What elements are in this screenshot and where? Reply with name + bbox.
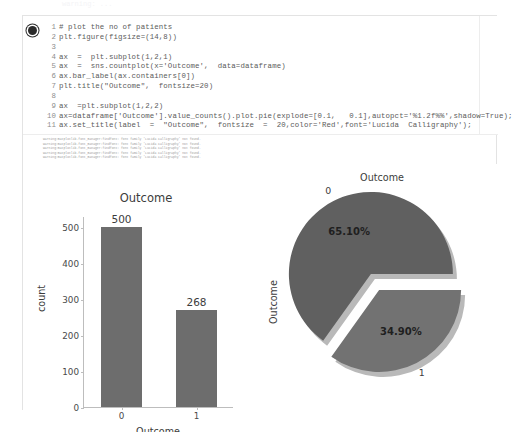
code-line: 9ax =plt.subplot(1,2,2) [43, 102, 494, 112]
bar-value-label: 500 [92, 213, 152, 225]
code-line-number: 11 [43, 121, 56, 131]
code-line-number: 10 [43, 112, 56, 122]
code-line: 7plt.title("Outcome", fontsize=20) [43, 82, 494, 92]
pie-slice-name-label: 0 [325, 185, 331, 196]
code-line-number: 4 [43, 53, 56, 63]
bar-chart-ytick-label: 400 [62, 259, 79, 269]
screenshot-root: warning: ... 1# plot the no of patients2… [0, 0, 517, 432]
bar-value-label: 268 [167, 296, 227, 308]
pie-slice-percent-label: 34.90% [380, 326, 422, 337]
bar-chart-ytick-mark [81, 372, 84, 373]
warning-line: warning:matplotlib.font_manager:findfont… [43, 155, 201, 160]
code-line-text: # plot the no of patients [59, 23, 172, 31]
bar-chart-xtick-mark [197, 407, 198, 410]
code-line-text: plt.title("Outcome", fontsize=20) [59, 82, 213, 90]
bar-chart-ytick-mark [81, 408, 84, 409]
bar-chart-ytick-mark [81, 300, 84, 301]
bar [176, 310, 217, 407]
notebook-output-frame: 1# plot the no of patients2plt.figure(fi… [22, 15, 497, 410]
bar-chart-ytick-label: 100 [62, 367, 79, 377]
code-line-number: 8 [43, 92, 56, 102]
code-line-number: 1 [43, 23, 56, 33]
bar-chart-ytick-label: 500 [62, 223, 79, 233]
code-line-number: 9 [43, 102, 56, 112]
bar-chart-panel: Outcome count 010020030040050050002681 O… [31, 164, 261, 410]
code-line: 3 [43, 43, 494, 53]
warning-output: warning:matplotlib.font_manager:findfont… [43, 137, 201, 160]
bar-chart-ytick-mark [81, 264, 84, 265]
bar-chart-ytick-mark [81, 336, 84, 337]
bar-chart-xtick-mark [122, 407, 123, 410]
code-cell[interactable]: 1# plot the no of patients2plt.figure(fi… [23, 16, 498, 135]
cell-run-indicator-icon[interactable] [28, 26, 37, 35]
bar-chart-ytick-label: 300 [62, 295, 79, 305]
warning-line: warning:matplotlib.font_manager:findfont… [43, 137, 201, 142]
code-line: 8 [43, 92, 494, 102]
code-line-text: ax.bar_label(ax.containers[0]) [59, 72, 195, 80]
code-line-text: ax = plt.subplot(1,2,1) [59, 53, 172, 61]
bar [101, 227, 142, 407]
pie-chart-graphic: 65.10%034.90%1 [275, 182, 490, 397]
code-line-text: ax =plt.subplot(1,2,2) [59, 102, 163, 110]
pie-slice-name-label: 1 [419, 367, 425, 378]
code-line-number: 2 [43, 33, 56, 43]
code-line: 6ax.bar_label(ax.containers[0]) [43, 72, 494, 82]
code-line-number: 5 [43, 62, 56, 72]
code-line: 11ax.set_title(label = "Outcome", fontsi… [43, 121, 494, 131]
code-line-text: ax=dataframe['Outcome'].value_counts().p… [59, 112, 513, 120]
bar-chart-title: Outcome [31, 191, 261, 205]
pie-chart-panel: Outcome Outcome 65.10%034.90%1 [261, 164, 498, 410]
code-line: 10ax=dataframe['Outcome'].value_counts()… [43, 112, 494, 122]
bar-chart-plot-area: 010020030040050050002681 [83, 217, 233, 408]
code-line: 1# plot the no of patients [43, 23, 494, 33]
code-line-number: 3 [43, 43, 56, 53]
code-line: 2plt.figure(figsize=(14,8)) [43, 33, 494, 43]
bar-chart-xlabel: Outcome [83, 426, 233, 432]
figure-output: Outcome count 010020030040050050002681 O… [23, 164, 498, 410]
code-line-text: ax.set_title(label = "Outcome", fontsize… [59, 121, 472, 129]
code-line-text: ax = sns.countplot(x='Outcome', data=dat… [59, 62, 286, 70]
bar-chart-ytick-mark [81, 228, 84, 229]
code-line-text: plt.figure(figsize=(14,8)) [59, 33, 177, 41]
bar-chart-ytick-label: 200 [62, 331, 79, 341]
code-line-number: 6 [43, 72, 56, 82]
pie-slice-percent-label: 65.10% [328, 226, 370, 237]
code-editor-text[interactable]: 1# plot the no of patients2plt.figure(fi… [43, 23, 494, 131]
code-line-number: 7 [43, 82, 56, 92]
top-cutoff-ghost-text: warning: ... [62, 0, 112, 8]
bar-chart-xtick-label: 1 [194, 411, 200, 421]
code-line: 4ax = plt.subplot(1,2,1) [43, 53, 494, 63]
bar-chart-ylabel: count [36, 285, 47, 312]
bar-chart-ytick-label: 0 [73, 403, 79, 413]
code-line: 5ax = sns.countplot(x='Outcome', data=da… [43, 62, 494, 72]
bar-chart-xtick-label: 0 [119, 411, 125, 421]
